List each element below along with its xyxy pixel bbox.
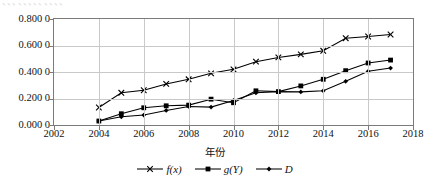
y-tick-label: 0.600 0 <box>0 40 50 51</box>
x-tick-mark <box>234 126 235 130</box>
x-axis-title: 年份 <box>0 144 430 159</box>
y-tick-label: 0.400 0 <box>0 67 50 78</box>
y-tick-mark <box>49 72 53 73</box>
legend-label: g(Y) <box>224 163 243 175</box>
data-point-diamond-marker <box>209 105 214 110</box>
diamond-marker <box>266 167 271 172</box>
x-tick-mark <box>189 126 190 130</box>
chart-page: 、、、、、、、、、、、、 0.800 00.600 00.400 00.200 … <box>0 0 430 187</box>
series-line <box>99 68 391 121</box>
legend-label: f(x) <box>166 163 181 175</box>
data-point-diamond-marker <box>343 79 348 84</box>
y-tick-mark <box>49 19 53 20</box>
x-tick-mark <box>368 126 369 130</box>
data-point-diamond-marker <box>388 66 393 71</box>
series-D <box>96 66 392 124</box>
square-marker <box>205 167 210 172</box>
y-tick-mark <box>49 46 53 47</box>
y-tick-label: 0.200 0 <box>0 93 50 104</box>
x-tick-mark <box>323 126 324 130</box>
x-axis-labels: 200220042006200820102012201420162018 <box>0 128 430 142</box>
horizontal-gridline <box>54 72 413 73</box>
cross-marker <box>137 164 163 174</box>
horizontal-gridline <box>54 99 413 100</box>
legend-item-D[interactable]: D <box>256 163 293 175</box>
legend-label: D <box>285 163 293 175</box>
y-tick-mark <box>49 99 53 100</box>
legend-item-fx[interactable]: f(x) <box>137 163 181 175</box>
x-tick-mark <box>278 126 279 130</box>
square-marker <box>195 164 221 174</box>
x-tick-mark <box>413 126 414 130</box>
y-tick-mark <box>49 125 53 126</box>
plot-area <box>53 18 414 126</box>
legend-item-gY[interactable]: g(Y) <box>195 163 243 175</box>
data-point-square-marker <box>388 58 393 63</box>
horizontal-gridline <box>54 46 413 47</box>
data-point-square-marker <box>298 84 303 89</box>
data-point-diamond-marker <box>164 108 169 113</box>
x-tick-mark <box>144 126 145 130</box>
x-tick-mark <box>54 126 55 130</box>
x-tick-mark <box>99 126 100 130</box>
data-point-square-marker <box>164 103 169 108</box>
chart-legend: f(x)g(Y)D <box>0 163 430 175</box>
diamond-marker <box>256 164 282 174</box>
data-point-diamond-marker <box>298 89 303 94</box>
y-tick-label: 0.800 0 <box>0 14 50 25</box>
